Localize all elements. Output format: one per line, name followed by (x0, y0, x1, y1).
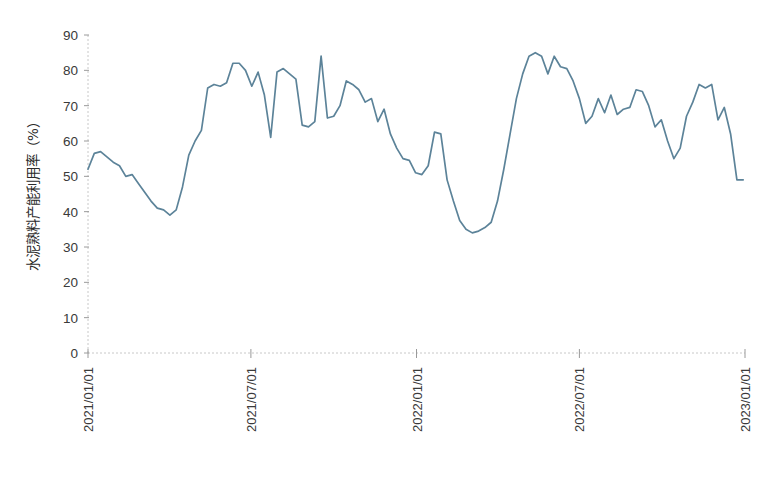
y-tick-label: 70 (63, 99, 78, 114)
y-tick-label: 20 (63, 275, 78, 290)
y-tick-label: 60 (63, 134, 78, 149)
x-tick-label: 2022/01/01 (410, 367, 425, 432)
x-tick-label: 2022/07/01 (572, 367, 587, 432)
y-axis-title: 水泥熟料产能利用率（%） (25, 115, 41, 271)
plot-background (0, 0, 774, 477)
y-tick-label: 40 (63, 205, 78, 220)
y-tick-label: 50 (63, 169, 78, 184)
y-axis-title-group: 水泥熟料产能利用率（%） (25, 115, 41, 271)
x-tick-label: 2021/01/01 (81, 367, 96, 432)
x-tick-label: 2021/07/01 (244, 367, 259, 432)
y-tick-label: 0 (70, 346, 78, 361)
y-tick-label: 30 (63, 240, 78, 255)
y-tick-label: 90 (63, 28, 78, 43)
y-tick-label: 80 (63, 63, 78, 78)
chart-canvas: 0102030405060708090 2021/01/012021/07/01… (0, 0, 774, 477)
x-tick-label: 2023/01/01 (738, 367, 753, 432)
cement-clinker-capacity-utilization-chart: 0102030405060708090 2021/01/012021/07/01… (0, 0, 774, 477)
y-tick-label: 10 (63, 311, 78, 326)
